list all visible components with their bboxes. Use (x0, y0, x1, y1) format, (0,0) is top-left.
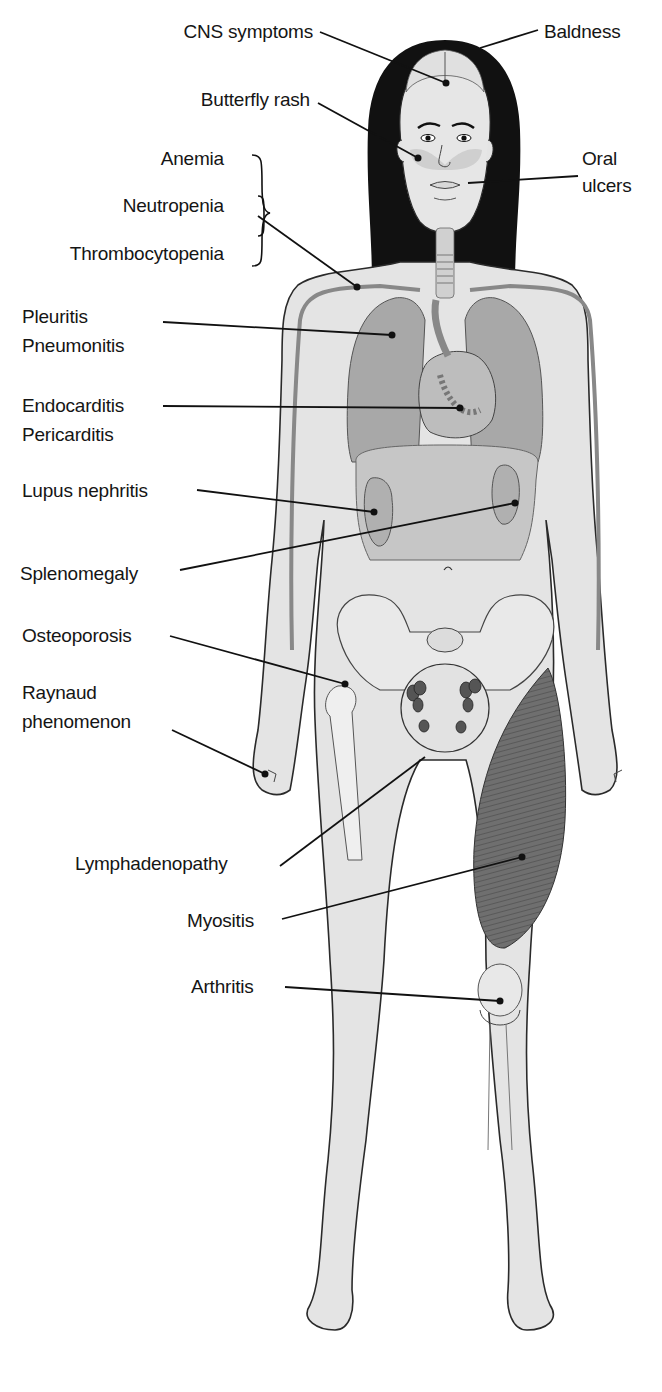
label-neutropenia: Neutropenia (60, 194, 224, 217)
label-splenomegaly: Splenomegaly (20, 562, 138, 585)
label-pneumonitis: Pneumonitis (22, 334, 124, 357)
label-butterfly-rash: Butterfly rash (130, 88, 310, 111)
knee (478, 964, 522, 1016)
label-raynaud: Raynaud (22, 681, 97, 704)
blood-bracket (252, 155, 270, 266)
face (400, 62, 490, 233)
label-arthritis: Arthritis (191, 975, 254, 998)
label-anemia: Anemia (100, 147, 224, 170)
label-lupus-nephritis: Lupus nephritis (22, 479, 148, 502)
label-pericarditis: Pericarditis (22, 423, 114, 446)
label-endocarditis: Endocarditis (22, 394, 124, 417)
label-phenomenon: phenomenon (22, 710, 131, 733)
heart (419, 351, 496, 437)
label-baldness: Baldness (544, 20, 621, 43)
label-pleuritis: Pleuritis (22, 305, 88, 328)
label-lymphadenopathy: Lymphadenopathy (75, 852, 228, 875)
label-myositis: Myositis (187, 909, 254, 932)
label-oral: Oral (582, 147, 617, 170)
spleen-kidney (492, 465, 519, 524)
label-thrombocytopenia: Thrombocytopenia (10, 242, 224, 265)
label-cns-symptoms: CNS symptoms (143, 20, 313, 43)
label-ulcers: ulcers (582, 174, 631, 197)
label-osteoporosis: Osteoporosis (22, 624, 132, 647)
